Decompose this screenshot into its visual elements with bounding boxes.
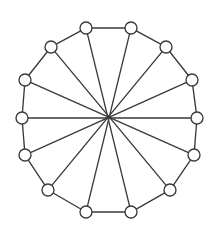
graph-edge-cycle-10-11 [22, 124, 24, 149]
graph-vertex-v7 [125, 206, 137, 218]
graph-edge-cycle-4-5 [194, 124, 196, 149]
graph-vertex-v6 [164, 184, 176, 196]
graph-vertex-v12 [19, 74, 31, 86]
graph-vertex-v5 [188, 149, 200, 161]
graph-vertex-v11 [16, 112, 28, 124]
graph-edge-cycle-2-3 [170, 52, 189, 76]
graph-figure [0, 0, 218, 228]
graph-edge-cycle-11-12 [22, 86, 24, 112]
graph-vertex-v2 [160, 41, 172, 53]
graph-edge-cycle-12-13 [29, 52, 48, 76]
graph-vertex-v3 [186, 74, 198, 86]
graph-edge-cycle-1-2 [136, 31, 160, 44]
graph-edge-cycle-9-10 [28, 160, 44, 185]
graph-vertex-v9 [42, 184, 54, 196]
graph-vertex-v1 [125, 22, 137, 34]
graph-vertex-v10 [19, 149, 31, 161]
vertex-layer [16, 22, 203, 218]
graph-edge-cycle-8-9 [53, 193, 81, 209]
graph-vertex-v0 [80, 22, 92, 34]
graph-edge-cycle-13-0 [56, 31, 80, 44]
graph-vertex-v13 [45, 41, 57, 53]
graph-edge-cycle-6-7 [136, 193, 165, 209]
graph-canvas [0, 0, 218, 228]
graph-vertex-v8 [80, 206, 92, 218]
graph-edge-cycle-3-4 [193, 86, 196, 112]
graph-edge-cycle-5-6 [173, 160, 190, 185]
graph-vertex-v4 [191, 112, 203, 124]
